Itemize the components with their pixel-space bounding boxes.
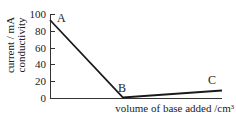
y-tick-20: 20: [35, 75, 47, 87]
x-axis-label: volume of base added /cm³: [115, 102, 234, 114]
y-axis-label-line2: conductivity: [15, 17, 27, 72]
y-tick-40: 40: [35, 58, 47, 70]
axes: [50, 14, 222, 99]
point-label-a: A: [57, 11, 66, 25]
y-axis-label: current / mA conductivity: [4, 17, 27, 73]
y-tick-80: 80: [35, 25, 47, 37]
y-tick-0: 0: [41, 92, 47, 104]
y-tick-100: 100: [30, 8, 47, 20]
conductivity-chart: current / mA conductivity 100 80 60 40 2…: [0, 0, 236, 118]
point-label-c: C: [208, 73, 216, 87]
point-label-b: B: [118, 81, 126, 95]
y-tick-labels: 100 80 60 40 20 0: [30, 8, 47, 104]
conductivity-line: [50, 20, 222, 98]
y-tick-60: 60: [35, 42, 47, 54]
